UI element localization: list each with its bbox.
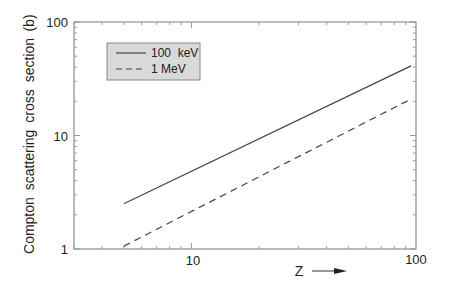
legend: 100 keV 1 MeV [107, 43, 200, 80]
ytick-label-100: 100 [46, 15, 68, 30]
panel-label: (b) [21, 14, 37, 31]
ytick-label-10: 10 [54, 129, 68, 144]
y-axis-title: Compton scattering cross section [21, 38, 37, 254]
series-1mev-line [124, 100, 409, 246]
x-axis-arrow-icon [312, 268, 347, 274]
chart: 100 keV 1 MeV 100 10 1 10 100 Compton sc… [0, 0, 450, 287]
legend-solid-label: 100 keV [151, 46, 198, 60]
xtick-label-100: 100 [405, 252, 427, 267]
x-axis-title: Z [295, 263, 304, 279]
series-100kev-line [124, 66, 411, 204]
xtick-label-10: 10 [186, 253, 200, 268]
legend-dashed-label: 1 MeV [151, 62, 186, 76]
ytick-label-1: 1 [61, 242, 68, 257]
